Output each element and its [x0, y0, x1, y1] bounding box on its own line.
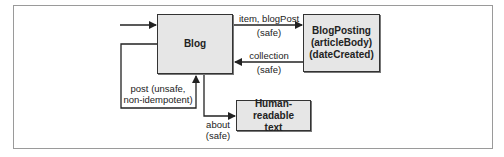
blogposting-node-prop-datecreated: (dateCreated) [309, 49, 373, 61]
collection-edge-label: collection (safe) [236, 50, 302, 75]
human-text-node-line2: text [265, 122, 283, 134]
about-edge-label-line1: about [203, 119, 233, 130]
post-edge-label-line1: post (unsafe, [122, 83, 194, 94]
about-arrow [204, 74, 235, 116]
item-edge-label-line1: item, blogPost [236, 13, 302, 24]
post-edge-label: post (unsafe, non-idempotent) [122, 83, 194, 105]
post-edge-label-line2: non-idempotent) [122, 94, 194, 105]
blog-node: Blog [157, 14, 233, 74]
human-text-node-line1: Human-readable [237, 98, 310, 122]
collection-edge-label-line1: collection [236, 50, 302, 61]
blogposting-node-title: BlogPosting [312, 25, 371, 37]
blogposting-node: BlogPosting (articleBody) (dateCreated) [303, 14, 380, 72]
human-readable-text-node: Human-readable text [236, 100, 311, 131]
blog-node-label: Blog [184, 38, 206, 50]
about-edge-label-line2: (safe) [203, 130, 233, 141]
blogposting-node-prop-articlebody: (articleBody) [311, 37, 372, 49]
about-edge-label: about (safe) [203, 119, 233, 141]
item-edge-label: item, blogPost (safe) [236, 13, 302, 38]
item-edge-label-line2: (safe) [236, 27, 302, 38]
collection-edge-label-line2: (safe) [236, 64, 302, 75]
